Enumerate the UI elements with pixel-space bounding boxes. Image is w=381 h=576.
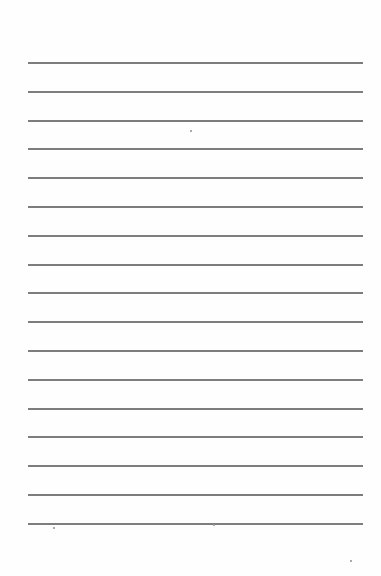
- ruled-line: [28, 62, 363, 64]
- ruled-line: [28, 235, 363, 237]
- ruled-line: [28, 436, 363, 438]
- ruled-line: [28, 91, 363, 93]
- ruled-line: [28, 494, 363, 496]
- ruled-line: [28, 148, 363, 150]
- ruled-line: [28, 177, 363, 179]
- ruled-line: [28, 379, 363, 381]
- ruled-line: [28, 408, 363, 410]
- lined-paper-sheet: [0, 0, 381, 576]
- ruled-line: [28, 264, 363, 266]
- ruled-line: [28, 350, 363, 352]
- paper-speck: [213, 524, 215, 526]
- ruled-line: [28, 321, 363, 323]
- paper-speck: [190, 130, 192, 132]
- ruled-line: [28, 465, 363, 467]
- ruled-line: [28, 206, 363, 208]
- paper-speck: [53, 527, 55, 529]
- paper-speck: [350, 560, 352, 562]
- ruled-line: [28, 523, 363, 525]
- ruled-line: [28, 292, 363, 294]
- ruled-line: [28, 120, 363, 122]
